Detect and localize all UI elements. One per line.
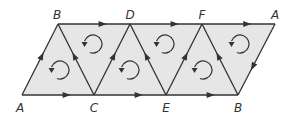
vertex-label-c: C — [90, 102, 98, 114]
vertex-label-b-bottom: B — [234, 102, 242, 114]
vertex-label-b-top: B — [53, 9, 61, 21]
vertex-label-d: D — [125, 9, 134, 21]
vertex-label-a-top: A — [271, 9, 279, 21]
vertex-label-e: E — [162, 102, 170, 114]
triangulated-strip-diagram — [0, 0, 292, 120]
vertex-label-a-bottom: A — [16, 102, 24, 114]
vertex-label-f: F — [199, 9, 206, 21]
